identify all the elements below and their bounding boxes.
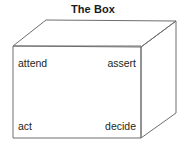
label-assert: assert [56,57,136,69]
box-diagram-figure: The Box attend assert act decide [0,0,186,145]
label-act: act [18,120,32,132]
label-decide: decide [56,120,136,132]
label-attend: attend [18,57,47,69]
